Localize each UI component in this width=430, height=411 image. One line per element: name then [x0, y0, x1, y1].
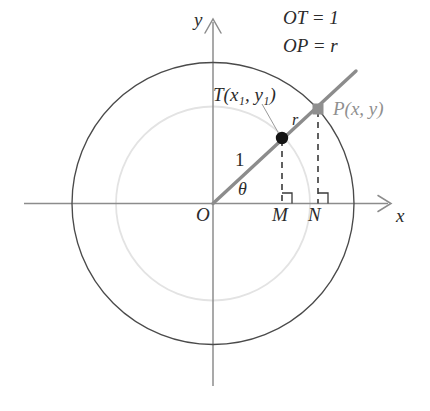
geometry-figure: OT = 1 OP = r T(x₁, y₁) P(x, y) r 1 θ O …	[0, 0, 430, 411]
foot-m-label: M	[272, 205, 288, 224]
point-t-label: T(x₁, y₁)	[213, 85, 276, 104]
annotation-op-equals: OP = r	[283, 36, 338, 55]
foot-n-label: N	[308, 205, 321, 224]
point-p-label: P(x, y)	[333, 99, 384, 118]
segment-r-label: r	[292, 112, 298, 128]
segment-one-label: 1	[235, 150, 245, 169]
point-t-marker	[276, 132, 288, 144]
angle-theta-label: θ	[238, 180, 247, 198]
right-angle-mark-m	[282, 193, 292, 204]
y-axis-label: y	[194, 10, 202, 29]
figure-canvas	[0, 0, 430, 411]
origin-label: O	[196, 205, 210, 224]
x-axis-label: x	[396, 206, 404, 225]
point-p-marker	[313, 104, 324, 115]
annotation-ot-equals: OT = 1	[283, 8, 339, 27]
right-angle-mark-n	[318, 193, 328, 204]
leader-line-t-label	[262, 104, 279, 134]
